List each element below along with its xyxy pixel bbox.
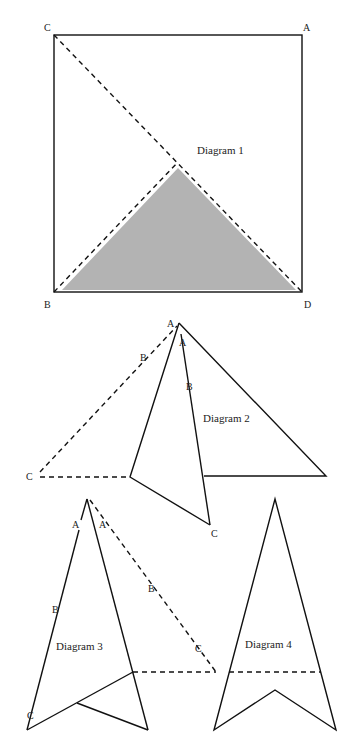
label-b-dashed: B [140, 352, 147, 363]
label-b: B [44, 299, 51, 310]
diagram-4-caption: Diagram 4 [245, 638, 292, 650]
label-d: D [304, 299, 311, 310]
right-edge [87, 499, 148, 730]
diagram-3: A B C A B C Diagram 3 [27, 499, 216, 730]
base-fold [27, 672, 133, 730]
left-edge-top [81, 499, 87, 520]
label-a-dashed: A [99, 519, 107, 530]
label-a-outer: A [167, 318, 175, 329]
label-b-dashed: B [148, 583, 155, 594]
label-c-inner: C [211, 528, 218, 539]
diagram-3-caption: Diagram 3 [56, 640, 103, 652]
label-b-left: B [52, 604, 59, 615]
diagram-1-caption: Diagram 1 [197, 144, 244, 156]
diagram-2: A A B C B C Diagram 2 [26, 318, 326, 539]
diagram-1: C A B D Diagram 1 [44, 22, 311, 310]
base-inner [77, 703, 148, 730]
label-a-left: A [72, 519, 80, 530]
label-a-inner: A [179, 337, 187, 348]
inner-edge [181, 334, 210, 525]
diagram-2-caption: Diagram 2 [203, 412, 250, 424]
origami-fold-diagrams: C A B D Diagram 1 A A B C B C Diagram 2 … [0, 0, 349, 750]
label-b-inner: B [186, 381, 193, 392]
arrow-shape [214, 499, 336, 730]
diagram-4: Diagram 4 [214, 499, 336, 730]
label-c-left: C [27, 710, 34, 721]
label-c-dashed: C [195, 643, 202, 654]
label-c-dashed: C [26, 471, 33, 482]
label-a: A [303, 22, 311, 33]
left-edge [27, 530, 79, 730]
label-c: C [44, 22, 51, 33]
shaded-triangle [62, 168, 296, 290]
right-flap [179, 323, 326, 476]
dashed-edge-diag [40, 326, 177, 472]
